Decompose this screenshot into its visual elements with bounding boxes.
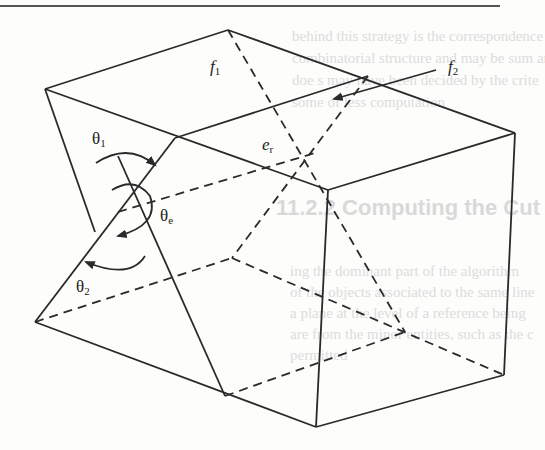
label-er: er xyxy=(262,136,273,155)
dashed-edges xyxy=(35,30,504,396)
cube-cut-diagram xyxy=(0,0,545,450)
theta1-arc xyxy=(96,153,155,165)
label-theta2: θ2 xyxy=(76,278,90,297)
thetae-arc xyxy=(112,184,152,236)
label-f2: f2 xyxy=(448,58,458,77)
theta2-arc xyxy=(86,256,145,270)
label-theta1: θ1 xyxy=(92,130,106,149)
label-f1: f1 xyxy=(210,58,220,77)
label-thetae: θe xyxy=(160,207,173,226)
solid-edges xyxy=(35,30,515,427)
